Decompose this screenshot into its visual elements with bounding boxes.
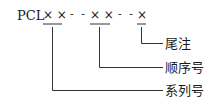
sequence-connector — [100, 27, 164, 68]
suffix-label: 尾注 — [165, 37, 191, 50]
series-label: 系列号 — [165, 84, 204, 97]
suffix-connector — [142, 27, 164, 44]
series-connector — [53, 27, 164, 91]
sequence-label: 顺序号 — [165, 61, 204, 74]
